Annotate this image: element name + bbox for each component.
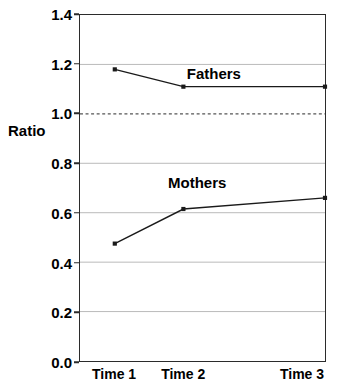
data-point-marker xyxy=(181,85,185,89)
data-point-marker xyxy=(113,242,117,246)
series-label-fathers: Fathers xyxy=(187,65,241,82)
x-tick-label: Time 2 xyxy=(161,366,205,382)
x-tick-label: Time 1 xyxy=(92,366,136,382)
data-point-marker xyxy=(323,85,327,89)
data-point-marker xyxy=(323,196,327,200)
data-point-marker xyxy=(181,207,185,211)
series-label-mothers: Mothers xyxy=(168,174,226,191)
x-tick-label: Time 3 xyxy=(280,366,324,382)
series-line-mothers xyxy=(115,198,325,244)
data-point-marker xyxy=(113,67,117,71)
line-chart-figure: Ratio 0.00.20.40.60.81.01.21.4 Time 1Tim… xyxy=(0,0,352,392)
